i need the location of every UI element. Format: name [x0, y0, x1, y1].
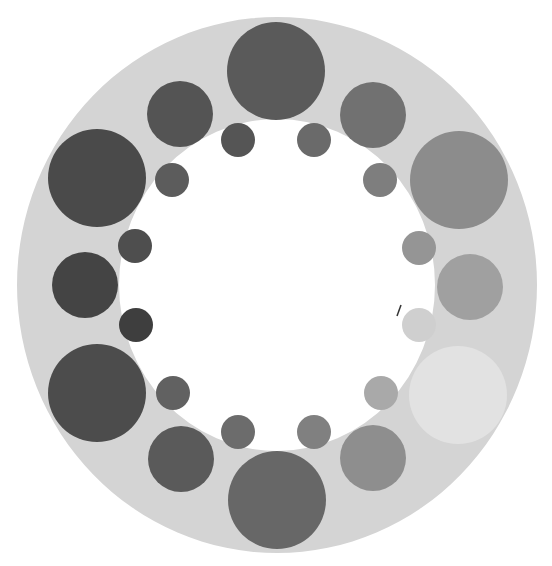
medium-circle-0	[340, 82, 406, 148]
small-circle-5	[364, 376, 398, 410]
medium-circle-1	[437, 254, 503, 320]
small-circle-8	[156, 376, 190, 410]
large-circle-2	[409, 346, 507, 444]
small-circle-3	[402, 231, 436, 265]
small-circle-6	[297, 415, 331, 449]
large-circle-0	[227, 22, 325, 120]
small-circle-7	[221, 415, 255, 449]
small-circle-1	[297, 123, 331, 157]
small-circle-9	[119, 308, 153, 342]
small-circle-4	[402, 308, 436, 342]
large-circle-5	[48, 129, 146, 227]
large-circle-4	[48, 344, 146, 442]
small-circle-0	[221, 123, 255, 157]
medium-circle-2	[340, 425, 406, 491]
concentric-circles-figure	[0, 0, 552, 566]
medium-circle-3	[148, 426, 214, 492]
medium-circle-5	[147, 81, 213, 147]
small-circle-2	[363, 163, 397, 197]
large-circle-3	[228, 451, 326, 549]
medium-circle-4	[52, 252, 118, 318]
small-circle-11	[155, 163, 189, 197]
large-circle-1	[410, 131, 508, 229]
small-circle-10	[118, 229, 152, 263]
